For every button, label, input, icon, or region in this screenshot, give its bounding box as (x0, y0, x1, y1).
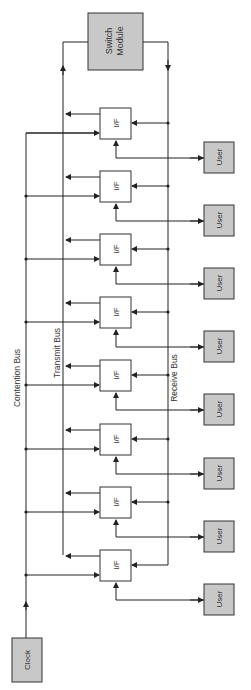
user-label: User (215, 400, 224, 417)
interface-unit: I/FUser (24, 550, 234, 615)
user-label: User (215, 527, 224, 544)
user-label: User (215, 274, 224, 291)
switch-module-label-2: Module (115, 26, 125, 56)
interface-unit: I/FUser (24, 487, 234, 552)
interface-label: I/F (112, 307, 121, 316)
interface-unit: I/FUser (24, 234, 234, 299)
user-label: User (215, 464, 224, 481)
interface-label: I/F (112, 244, 121, 253)
receive-bus (143, 42, 168, 565)
transmit-bus (63, 42, 88, 555)
interface-unit: I/FUser (24, 424, 234, 489)
user-label: User (215, 337, 224, 354)
interface-label: I/F (112, 118, 121, 127)
network-diagram: Switch Module Clock Contention Bus Trans… (0, 0, 251, 690)
clock-box: Clock (12, 638, 42, 682)
clock-label: Clock (23, 649, 32, 670)
receive-bus-label: Receive Bus (169, 354, 179, 402)
interface-label: I/F (112, 497, 121, 506)
interface-label: I/F (112, 434, 121, 443)
interface-label: I/F (112, 181, 121, 190)
interface-unit: I/FUser (26, 108, 234, 173)
interface-label: I/F (112, 370, 121, 379)
transmit-bus-label: Transmit Bus (52, 328, 62, 378)
interface-label: I/F (112, 560, 121, 569)
switch-module-label-1: Switch (104, 28, 114, 55)
contention-bus-label: Contention Bus (12, 349, 22, 407)
interface-unit: I/FUser (24, 171, 234, 236)
switch-module: Switch Module (88, 13, 143, 70)
user-label: User (215, 211, 224, 228)
user-label: User (215, 590, 224, 607)
user-label: User (215, 148, 224, 165)
